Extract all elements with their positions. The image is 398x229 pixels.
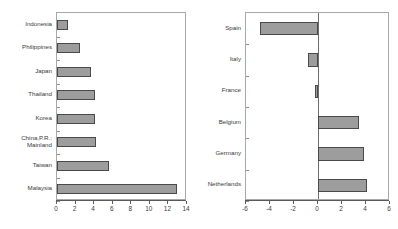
category-labels-right: SpainItalyFranceBelgiumGermanyNetherland…: [198, 0, 241, 229]
category-label: Taiwan: [0, 161, 52, 168]
bar: [318, 116, 359, 129]
category-label: Germany: [198, 149, 241, 156]
figure-root: IndonesiaPhilippinesJapanThailandKoreaCh…: [0, 0, 398, 229]
y-axis-tick: [246, 170, 249, 171]
bar: [57, 90, 95, 100]
x-axis-tick: [93, 201, 94, 204]
x-axis-tick-label: 8: [129, 205, 133, 212]
category-label: Indonesia: [0, 20, 52, 27]
x-axis-tick-label: 12: [164, 205, 171, 212]
bar: [318, 147, 364, 160]
y-axis-tick: [246, 138, 249, 139]
bar: [260, 22, 318, 35]
y-axis-tick: [246, 107, 249, 108]
y-axis-tick: [57, 107, 60, 108]
x-axis-tick-label: 6: [387, 205, 391, 212]
x-axis-tick: [293, 201, 294, 204]
bar: [57, 43, 80, 53]
x-axis-tick-label: -2: [290, 205, 296, 212]
bar: [57, 184, 177, 194]
bar: [57, 114, 95, 124]
category-label: Spain: [198, 24, 241, 31]
x-axis-tick-label: 14: [182, 205, 189, 212]
x-axis-tick: [149, 201, 150, 204]
x-axis-tick: [365, 201, 366, 204]
y-axis-tick: [57, 37, 60, 38]
x-axis-tick-label: 0: [54, 205, 58, 212]
x-axis-tick: [186, 201, 187, 204]
category-label: Netherlands: [198, 181, 241, 188]
bar: [315, 85, 318, 98]
x-axis-tick: [341, 201, 342, 204]
x-axis-tick: [389, 201, 390, 204]
y-axis-tick: [57, 201, 60, 202]
y-axis-tick: [246, 44, 249, 45]
bar: [57, 161, 109, 171]
plot-area-right: [245, 12, 389, 200]
x-axis-tick-label: 6: [110, 205, 114, 212]
category-label: Japan: [0, 67, 52, 74]
bar: [308, 53, 318, 66]
x-axis-tick-label: 0: [315, 205, 319, 212]
y-axis-tick: [57, 84, 60, 85]
chart-panel-right: SpainItalyFranceBelgiumGermanyNetherland…: [198, 0, 398, 229]
x-axis-tick-label: 2: [73, 205, 77, 212]
x-axis-tick: [269, 201, 270, 204]
y-axis-tick: [57, 178, 60, 179]
category-label: Belgium: [198, 118, 241, 125]
bar: [57, 67, 91, 77]
x-axis-tick-label: 10: [145, 205, 152, 212]
category-label: Korea: [0, 114, 52, 121]
x-axis-tick-label: 2: [339, 205, 343, 212]
bar: [57, 20, 68, 30]
x-axis-tick: [317, 201, 318, 204]
x-axis-tick: [245, 201, 246, 204]
y-axis-tick: [57, 60, 60, 61]
y-axis-tick: [246, 76, 249, 77]
category-label: Italy: [198, 55, 241, 62]
bar: [57, 137, 96, 147]
chart-panel-left: IndonesiaPhilippinesJapanThailandKoreaCh…: [0, 0, 198, 229]
y-axis-tick: [57, 131, 60, 132]
plot-area-left: [56, 12, 186, 200]
category-label: Philippines: [0, 44, 52, 51]
bar: [318, 179, 367, 192]
x-axis-tick-label: -4: [266, 205, 272, 212]
x-axis-tick: [130, 201, 131, 204]
category-labels-left: IndonesiaPhilippinesJapanThailandKoreaCh…: [0, 0, 52, 229]
category-label: Thailand: [0, 91, 52, 98]
y-axis-tick: [246, 201, 249, 202]
x-axis-tick-label: 4: [91, 205, 95, 212]
x-axis-tick: [75, 201, 76, 204]
category-label: China,P.R.: Mainland: [0, 134, 52, 148]
zero-reference-line: [318, 13, 319, 199]
x-axis-tick-label: -6: [242, 205, 248, 212]
x-axis-tick-label: 4: [363, 205, 367, 212]
x-axis-tick: [56, 201, 57, 204]
x-axis-tick: [167, 201, 168, 204]
x-axis-tick: [112, 201, 113, 204]
category-label: Malaysia: [0, 185, 52, 192]
y-axis-tick: [57, 154, 60, 155]
category-label: France: [198, 87, 241, 94]
